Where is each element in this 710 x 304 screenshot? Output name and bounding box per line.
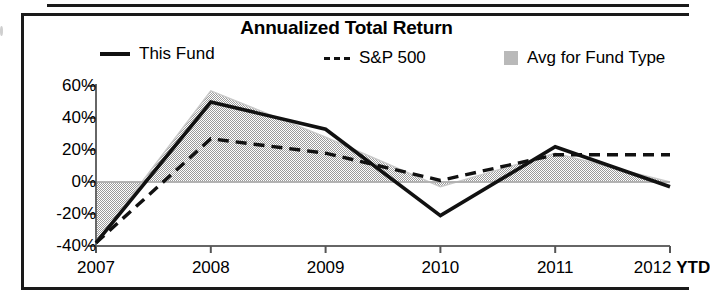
chart-panel: Annualized Total Return This Fund S&P 50…	[21, 13, 689, 290]
chart-title: Annualized Total Return	[24, 17, 669, 39]
legend-label-this-fund: This Fund	[139, 44, 215, 64]
dashed-line-swatch-icon	[324, 57, 350, 60]
page-top-rule	[47, 4, 689, 7]
page-edge-artifact	[0, 26, 3, 36]
legend-item-this-fund: This Fund	[100, 44, 215, 64]
x-axis-tick-label: 2009	[307, 258, 345, 278]
x-axis-tick-label: 2010	[421, 258, 459, 278]
plot-area: 60%40%20%0%-20%-40% 20072008200920102011…	[24, 62, 692, 292]
x-axis-tick-label: 2007	[77, 258, 115, 278]
solid-line-swatch-icon	[100, 52, 130, 56]
x-axis-tick-label: 2012 YTD	[634, 258, 710, 278]
x-axis-tick-label: 2011	[537, 258, 574, 278]
x-axis-labels: 200720082009201020112012 YTD	[24, 62, 692, 292]
x-axis-tick-label: 2008	[192, 258, 230, 278]
